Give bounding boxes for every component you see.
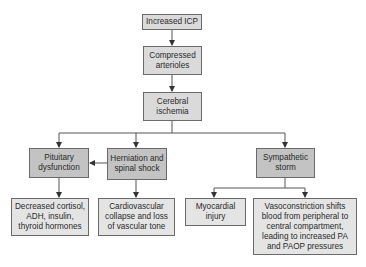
node-cerebral-ischemia: Cerebral ischemia	[143, 92, 202, 121]
node-myocardial-injury: Myocardial injury	[185, 198, 246, 226]
node-decreased-hormones: Decreased cortisol, ADH, insulin, thyroi…	[11, 198, 89, 236]
node-increased-icp: Increased ICP	[142, 14, 202, 30]
node-compressed-arterioles: Compressed arterioles	[143, 46, 202, 75]
node-vasoconstriction: Vasoconstriction shifts blood from perip…	[253, 198, 357, 255]
node-cardiovascular-collapse: Cardiovascular collapse and loss of vasc…	[98, 198, 175, 236]
node-herniation-spinal-shock: Herniation and spinal shock	[107, 148, 167, 180]
node-sympathetic-storm: Sympathetic storm	[256, 148, 315, 178]
node-pituitary-dysfunction: Pituitary dysfunction	[29, 148, 89, 178]
